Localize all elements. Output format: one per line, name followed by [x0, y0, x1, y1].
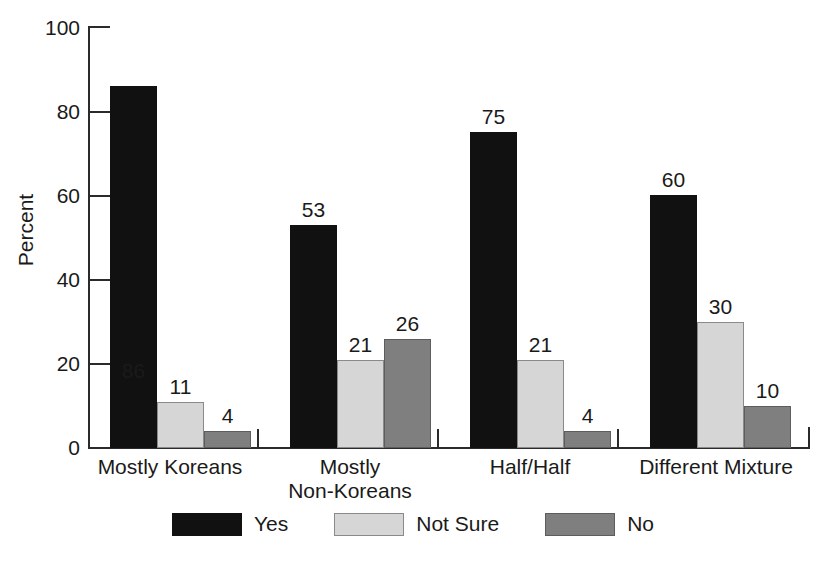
legend-item-yes[interactable]: Yes	[172, 512, 334, 536]
bar-value-g1-yes: 53	[280, 199, 347, 220]
x-category-label-1: Mostly Non-Koreans	[260, 455, 440, 503]
bar-value-g0-not-sure: 11	[147, 376, 214, 397]
legend-swatch-yes-icon	[172, 513, 242, 536]
bar-value-g2-no: 4	[554, 405, 621, 426]
bar-value-g1-no: 26	[374, 313, 441, 334]
plot-area: 86 11 4 53 21 26 75 21 4 60 30 10	[88, 27, 810, 448]
legend-label-no: No	[627, 512, 654, 536]
bar-value-g0-no: 4	[194, 405, 261, 426]
y-tick-label-80: 80	[6, 101, 80, 122]
x-category-label-0: Mostly Koreans	[80, 455, 260, 479]
bar-value-g3-no: 10	[734, 380, 801, 401]
legend-swatch-not-sure-icon	[334, 513, 404, 536]
bar-value-g3-yes: 60	[640, 169, 707, 190]
bar-value-g2-not-sure: 21	[507, 334, 574, 355]
legend-label-not-sure: Not Sure	[416, 512, 499, 536]
legend-item-not-sure[interactable]: Not Sure	[334, 512, 545, 536]
x-category-label-2: Half/Half	[440, 455, 620, 479]
legend: Yes Not Sure No	[0, 512, 826, 536]
bar-value-g1-not-sure: 21	[327, 334, 394, 355]
bar-g3-yes[interactable]	[650, 195, 697, 448]
bar-g0-no[interactable]	[204, 431, 251, 448]
bar-g2-no[interactable]	[564, 431, 611, 448]
legend-item-no[interactable]: No	[545, 512, 654, 536]
bar-g1-not-sure[interactable]	[337, 360, 384, 448]
x-category-label-3: Different Mixture	[618, 455, 814, 479]
bar-chart: Percent 0 20 40 60 80 100 86 11 4	[0, 0, 826, 561]
legend-label-yes: Yes	[254, 512, 288, 536]
y-tick-label-20: 20	[6, 353, 80, 374]
y-tick-label-60: 60	[6, 185, 80, 206]
y-tick-label-0: 0	[6, 437, 80, 458]
bar-g3-no[interactable]	[744, 406, 791, 448]
bar-g2-yes[interactable]	[470, 132, 517, 448]
bar-value-g2-yes: 75	[460, 106, 527, 127]
bar-value-g3-not-sure: 30	[687, 296, 754, 317]
bar-g2-not-sure[interactable]	[517, 360, 564, 448]
legend-swatch-no-icon	[545, 513, 615, 536]
y-tick-label-40: 40	[6, 269, 80, 290]
y-tick-label-100: 100	[6, 17, 80, 38]
